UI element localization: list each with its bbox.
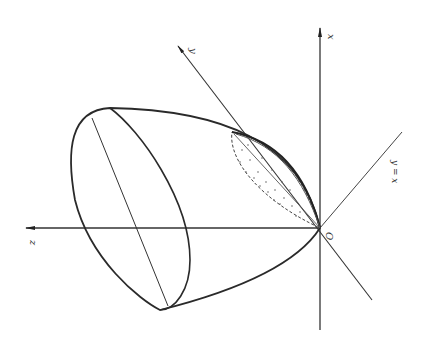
plane-label: y = x xyxy=(390,159,400,183)
plane-line-y-equals-x xyxy=(320,132,402,228)
diagram-canvas: x y z y = x O xyxy=(0,0,432,346)
y-axis xyxy=(178,46,372,300)
z-axis-label: z xyxy=(28,239,39,246)
y-axis-label: y xyxy=(188,47,199,54)
stipple-dots xyxy=(239,144,301,217)
opening-diameter xyxy=(92,118,168,306)
x-axis-label: x xyxy=(326,34,337,40)
origin-label: O xyxy=(324,232,335,240)
cut-chord xyxy=(234,134,320,228)
solid-outline xyxy=(71,108,320,310)
